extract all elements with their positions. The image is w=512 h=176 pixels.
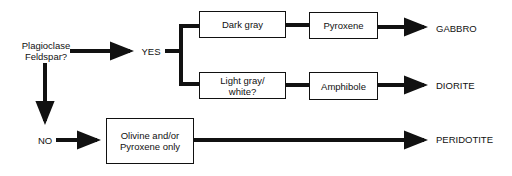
light-gray-line1: Light gray/ [220, 75, 264, 86]
no-label: NO [35, 135, 55, 146]
amphibole-text: Amphibole [321, 81, 366, 92]
amphibole-box: Amphibole [309, 72, 378, 100]
question-line2: Feldspar? [20, 51, 72, 62]
light-gray-line2: white? [220, 86, 264, 97]
light-gray-box: Light gray/ white? [199, 72, 286, 99]
olivine-pyroxene-box: Olivine and/or Pyroxene only [106, 118, 194, 164]
dark-gray-box: Dark gray [199, 11, 286, 38]
question-line1: Plagioclase [20, 40, 72, 51]
olivine-line2: Pyroxene only [120, 141, 180, 152]
olivine-line1: Olivine and/or [120, 130, 180, 141]
pyroxene-box: Pyroxene [309, 12, 378, 39]
result-gabbro: GABBRO [436, 23, 477, 34]
pyroxene-text: Pyroxene [323, 20, 363, 31]
dark-gray-text: Dark gray [222, 19, 263, 30]
question-label: Plagioclase Feldspar? [20, 40, 72, 62]
result-diorite: DIORITE [436, 80, 475, 91]
result-peridotite: PERIDOTITE [436, 134, 493, 145]
yes-label: YES [139, 46, 163, 57]
